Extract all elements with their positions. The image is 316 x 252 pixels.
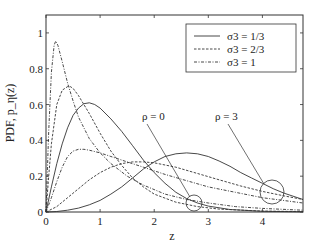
- y-tick-label: 0.2: [29, 170, 43, 182]
- svg-text:ρ = 3: ρ = 3: [215, 110, 238, 122]
- y-tick-label: 0.8: [29, 63, 43, 75]
- x-tick-label: 2: [151, 215, 157, 227]
- curve-1: [46, 103, 303, 212]
- y-tick-label: 1: [38, 27, 44, 39]
- svg-text:ρ = 0: ρ = 0: [142, 110, 165, 122]
- legend-label-3: σ3 = 1: [227, 56, 256, 68]
- y-tick-label: 0: [38, 206, 44, 218]
- y-axis-label: PDF, p_η(z): [3, 84, 17, 143]
- x-tick-label: 4: [260, 215, 266, 227]
- x-tick-label: 3: [206, 215, 212, 227]
- x-tick-label: 1: [97, 215, 103, 227]
- x-tick-label: 0: [43, 215, 49, 227]
- y-tick-label: 0.4: [29, 134, 43, 146]
- y-tick-label: 0.6: [29, 99, 43, 111]
- legend-label-2: σ3 = 2/3: [227, 43, 265, 55]
- legend-label-1: σ3 = 1/3: [227, 30, 265, 42]
- x-axis-label: z: [169, 229, 174, 243]
- legend: σ3 = 1/3 σ3 = 2/3 σ3 = 1: [186, 24, 296, 72]
- curve-5: [46, 162, 303, 212]
- pdf-chart: 0123400.20.40.60.81 z PDF, p_η(z) σ3 = 1…: [0, 0, 316, 252]
- curve-6: [46, 149, 303, 212]
- annotation-rho-0: ρ = 0: [142, 110, 202, 211]
